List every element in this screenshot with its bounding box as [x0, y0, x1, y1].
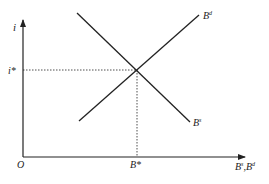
demand-curve-label: Bd [203, 10, 213, 21]
equilibrium-rate-label: i* [8, 65, 16, 76]
bond-market-diagram: i i* O B* Bd Bs Bs,Bd [0, 0, 269, 184]
x-axis-label: Bs,Bd [235, 161, 256, 172]
demand-curve [79, 15, 199, 121]
y-axis-label: i [13, 21, 16, 33]
supply-curve-label: Bs [193, 117, 202, 128]
supply-curve [77, 13, 190, 122]
origin-label: O [17, 159, 24, 170]
equilibrium-quantity-label: B* [130, 159, 141, 170]
